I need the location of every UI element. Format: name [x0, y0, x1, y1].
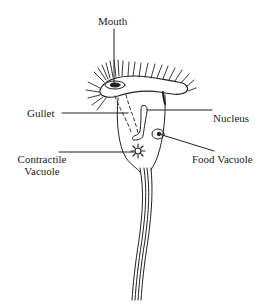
label-contractile-vacuole-line1: Contractile	[15, 153, 69, 165]
food-vacuole-leader-line	[159, 134, 214, 151]
stalk	[132, 168, 152, 300]
label-contractile-vacuole: Contractile Vacuole	[15, 153, 69, 177]
contractile-vacuole	[131, 144, 145, 158]
food-vacuole	[152, 129, 164, 139]
leader-lines	[59, 29, 214, 152]
vorticella-diagram: Mouth Gullet Nucleus Contractile Vacuole…	[0, 0, 271, 308]
label-contractile-vacuole-line2: Vacuole	[15, 165, 69, 177]
peristome	[100, 76, 188, 104]
label-mouth: Mouth	[98, 15, 127, 27]
gullet	[115, 95, 138, 134]
label-nucleus: Nucleus	[213, 112, 249, 124]
label-gullet: Gullet	[27, 107, 55, 119]
nucleus	[133, 105, 148, 140]
label-food-vacuole: Food Vacuole	[192, 153, 253, 165]
